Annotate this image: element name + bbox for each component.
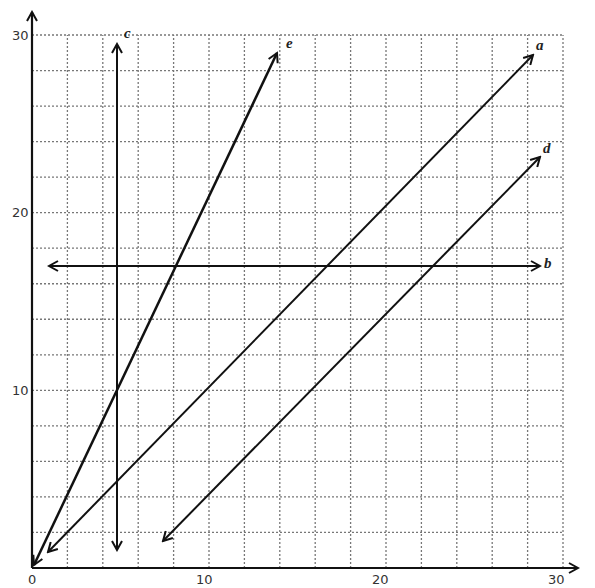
x-tick-0: 0	[28, 572, 36, 587]
label-b: b	[544, 255, 552, 271]
coordinate-plane: 0 10 20 30 10 20 30 a b c d e	[0, 0, 595, 588]
x-tick-30: 30	[548, 572, 565, 587]
line-d	[163, 157, 540, 541]
lines	[34, 44, 540, 565]
y-tick-10: 10	[12, 383, 29, 398]
line-e	[34, 53, 277, 565]
y-tick-20: 20	[12, 205, 29, 220]
line-a	[48, 55, 533, 552]
x-tick-20: 20	[372, 572, 389, 587]
label-d: d	[543, 140, 551, 156]
x-tick-10: 10	[196, 572, 213, 587]
label-e: e	[286, 35, 293, 51]
label-c: c	[124, 25, 131, 41]
y-tick-30: 30	[12, 28, 29, 43]
label-a: a	[536, 37, 544, 53]
